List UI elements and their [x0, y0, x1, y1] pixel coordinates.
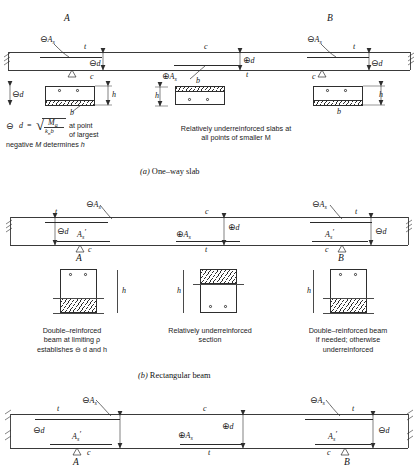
- support-triangle-left: [72, 72, 80, 78]
- rebar-dot: [206, 98, 209, 101]
- label-negative-d-left: ⊖d: [89, 59, 101, 68]
- slab-bottom-face: [8, 70, 410, 71]
- label-h: h: [122, 287, 126, 295]
- panel-third-elevation: t c t ⊖As ⊖As ⊕As As′ As′ ⊖d ⊕d ⊖d c t c…: [0, 390, 418, 471]
- label-t-mid-bottom: t: [208, 449, 210, 457]
- panel-rectangular-beam: t c t c t c ⊖As ⊖As ⊕As As′ As′ ⊖d ⊕d ⊖d…: [0, 195, 418, 390]
- h-dimension-line: [117, 270, 118, 313]
- label-t-right: t: [353, 43, 355, 51]
- minus-circle-icon: ⊖: [82, 395, 90, 405]
- beam-section-right: h: [290, 267, 418, 322]
- note-double-reinforced-left: Double–reinforced beam at limiting ρ est…: [4, 326, 140, 354]
- label-positive-As-mid: ⊕As: [162, 72, 177, 82]
- label-As-prime-left: As′: [77, 229, 86, 240]
- beam-section-mid: h: [160, 267, 280, 322]
- formula-equals: =: [27, 122, 32, 130]
- rebar-compression-right: [312, 241, 368, 242]
- minus-circle-icon: ⊖: [378, 425, 386, 435]
- point-label-B: B: [344, 458, 350, 468]
- label-positive-d-mid: ⊕d: [228, 223, 240, 232]
- label-b: b: [196, 77, 200, 85]
- beam-top-face: [10, 414, 408, 415]
- label-negative-d: ⊖d: [12, 90, 24, 99]
- centroid-line: [193, 284, 244, 285]
- rebar-negative-right: [305, 419, 373, 420]
- note-underreinforced-mid: Relatively underreinforced section: [142, 326, 278, 345]
- section-compression-hatch: [200, 269, 237, 284]
- h-dimension-line: [183, 270, 184, 313]
- plus-circle-icon: ⊕: [243, 55, 251, 65]
- section-compression-hatch: [175, 86, 225, 92]
- panel-one-way-slab: A B t c t c t c ⊖As ⊖As ⊕As ⊖d ⊕d ⊖d: [0, 0, 418, 195]
- label-negative-d-right: ⊖d: [375, 227, 387, 236]
- note-underreinforced-slabs: Relatively underreinforced slabs at all …: [146, 124, 326, 143]
- rebar-dot: [76, 89, 79, 92]
- figure-caption-b: (b) Rectangular beam: [138, 371, 211, 380]
- slab-section-right: h b: [285, 82, 418, 122]
- label-As-prime-right: As′: [328, 431, 337, 442]
- beam-left-end-tick: [10, 414, 11, 448]
- slab-section-mid: b h: [140, 82, 270, 122]
- label-c-mid-top: c: [204, 43, 208, 51]
- beam-right-end-tick: [408, 414, 409, 448]
- formula-radical: √: [36, 118, 44, 133]
- label-c-right-bottom: c: [327, 449, 331, 457]
- label-positive-d-mid: ⊕d: [243, 56, 255, 65]
- label-t-right: t: [352, 405, 354, 413]
- minus-circle-icon: ⊖: [40, 34, 48, 44]
- rebar-dot: [326, 89, 329, 92]
- beam-bottom-face: [10, 245, 408, 246]
- label-h: h: [155, 92, 159, 100]
- rebar-dot: [69, 273, 72, 276]
- label-t-left: t: [55, 208, 57, 216]
- label-c-mid-top: c: [205, 208, 209, 216]
- rebar-negative-left: [45, 222, 108, 223]
- rebar-compression-left: [50, 444, 112, 445]
- label-As-prime-right: As′: [325, 229, 334, 240]
- figure-canvas: A B t c t c t c ⊖As ⊖As ⊕As ⊖d ⊕d ⊖d: [0, 0, 418, 471]
- rebar-positive-mid: [180, 444, 243, 445]
- label-negative-As-left: ⊖As: [82, 396, 97, 406]
- point-label-A: A: [64, 14, 70, 24]
- point-label-A: A: [73, 458, 79, 468]
- minus-circle-icon: ⊖: [89, 58, 97, 68]
- formula-text-line2: of largest: [69, 130, 99, 139]
- label-c-mid-top: c: [203, 405, 207, 413]
- section-compression-hatch: [60, 298, 97, 313]
- section-base-line: [323, 313, 374, 314]
- label-negative-d-right: ⊖d: [378, 426, 390, 435]
- label-t-mid-bottom: t: [246, 71, 248, 79]
- minus-circle-icon: ⊖: [310, 395, 318, 405]
- slab-right-end-tick: [410, 52, 411, 70]
- point-label-A: A: [76, 254, 82, 264]
- section-compression-hatch: [330, 298, 367, 313]
- rebar-negative-right: [310, 222, 372, 223]
- centroid-line-top: [323, 298, 374, 299]
- minus-circle-icon: ⊖: [86, 199, 94, 209]
- plus-circle-icon: ⊕: [162, 71, 170, 81]
- centroid-line-top: [53, 298, 104, 299]
- plus-circle-icon: ⊕: [228, 222, 236, 232]
- label-t-left: t: [84, 43, 86, 51]
- formula-lead-symbol: ⊖: [6, 122, 14, 131]
- label-positive-As-mid: ⊕As: [176, 230, 191, 240]
- beam-right-end-tick: [408, 217, 409, 245]
- label-t-left: t: [57, 405, 59, 413]
- rebar-negative-right: [307, 57, 369, 58]
- rebar-dot: [84, 273, 87, 276]
- label-negative-As-left: ⊖As: [86, 200, 101, 210]
- beam-left-end-tick: [10, 217, 11, 245]
- minus-circle-icon: ⊖: [375, 226, 383, 236]
- label-negative-As-right: ⊖As: [307, 35, 322, 45]
- rebar-dot: [224, 305, 227, 308]
- label-positive-d-mid: ⊕d: [222, 422, 234, 431]
- section-compression-hatch: [45, 100, 95, 106]
- rebar-compression-right: [315, 444, 371, 445]
- rebar-dot: [58, 89, 61, 92]
- minus-circle-icon: ⊖: [307, 34, 315, 44]
- label-b: b: [337, 108, 341, 116]
- minus-circle-icon: ⊖: [312, 199, 320, 209]
- slab-top-face: [8, 52, 410, 53]
- label-negative-As-right: ⊖As: [312, 200, 327, 210]
- formula-text-line3: negative M determines h: [6, 140, 85, 149]
